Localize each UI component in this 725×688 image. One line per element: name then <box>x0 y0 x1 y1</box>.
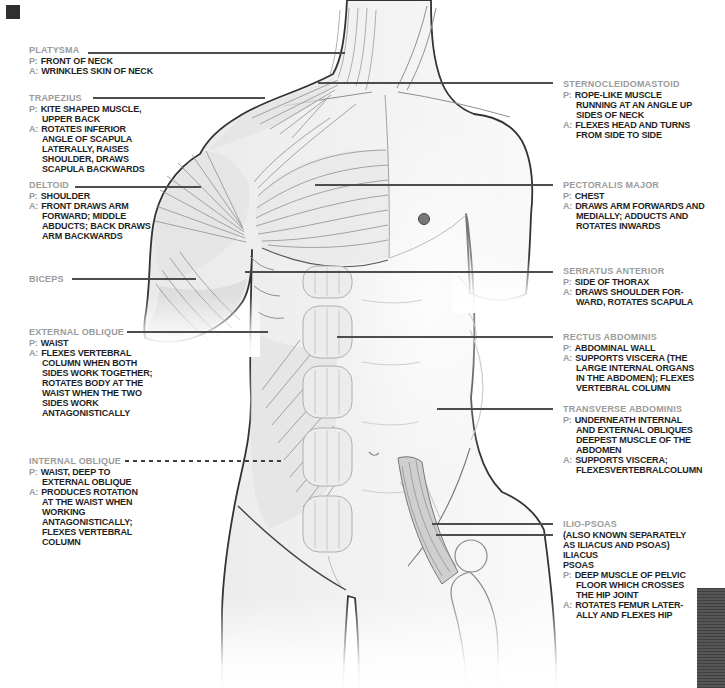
muscle-name: PLATYSMA <box>29 45 199 55</box>
alias-note: (ALSO KNOWN SEPARATELY AS ILIACUS AND PS… <box>563 530 725 570</box>
action-line: A:DRAWS SHOULDER FOR- WARD, ROTATES SCAP… <box>563 287 725 307</box>
action-line: A:DRAWS ARM FORWARDS AND MEDIALLY; ADDUC… <box>563 201 725 231</box>
position-line: P:WAIST <box>29 338 199 348</box>
label-platysma: PLATYSMA P:FRONT OF NECK A:WRINKLES SKIN… <box>29 45 199 76</box>
muscle-name: RECTUS ABDOMINIS <box>563 332 725 342</box>
leader-line-iliopsoas-lower <box>436 534 553 536</box>
muscle-name: TRAPEZIUS <box>29 93 199 103</box>
label-external-oblique: EXTERNAL OBLIQUE P:WAIST A:FLEXES VERTEB… <box>29 327 199 418</box>
position-line: P:KITE SHAPED MUSCLE, UPPER BACK <box>29 104 199 124</box>
right-arm-cut-fade <box>452 255 544 313</box>
leader-line-sternocleidomastoid <box>318 82 553 84</box>
action-line: A:ROTATES INFERIOR ANGLE OF SCAPULA LATE… <box>29 124 199 174</box>
muscle-name: DELTOID <box>29 180 199 190</box>
label-pectoralis-major: PECTORALIS MAJOR P:CHEST A:DRAWS ARM FOR… <box>563 180 725 231</box>
label-serratus-anterior: SERRATUS ANTERIOR P:SIDE OF THORAX A:DRA… <box>563 266 725 307</box>
position-line: P:WAIST, DEEP TO EXTERNAL OBLIQUE <box>29 467 199 487</box>
muscle-name: TRANSVERSE ABDOMINIS <box>563 404 725 414</box>
muscle-name: SERRATUS ANTERIOR <box>563 266 725 276</box>
leader-line-serratus <box>245 271 553 273</box>
label-rectus-abdominis: RECTUS ABDOMINIS P:ABDOMINAL WALL A:SUPP… <box>563 332 725 393</box>
label-transverse-abdominis: TRANSVERSE ABDOMINIS P:UNDERNEATH INTERN… <box>563 404 725 475</box>
muscle-name: INTERNAL OBLIQUE <box>29 456 199 466</box>
action-line: A:FLEXES HEAD AND TURNS FROM SIDE TO SID… <box>563 120 725 140</box>
label-sternocleidomastoid: STERNOCLEIDOMASTOID P:ROPE-LIKE MUSCLE R… <box>563 79 725 140</box>
muscle-name: STERNOCLEIDOMASTOID <box>563 79 725 89</box>
position-line: P:UNDERNEATH INTERNAL AND EXTERNAL OBLIQ… <box>563 415 725 455</box>
bottom-fade <box>140 598 580 688</box>
muscle-name: ILIO-PSOAS <box>563 519 725 529</box>
action-line: A:WRINKLES SKIN OF NECK <box>29 66 199 76</box>
label-biceps: BICEPS <box>29 274 199 285</box>
leader-line-transverse <box>437 408 553 410</box>
nipple-mark <box>419 214 430 225</box>
muscle-name: PECTORALIS MAJOR <box>563 180 725 190</box>
muscle-name: EXTERNAL OBLIQUE <box>29 327 199 337</box>
leader-line-iliopsoas-upper <box>432 523 553 525</box>
diagram-canvas: PLATYSMA P:FRONT OF NECK A:WRINKLES SKIN… <box>0 0 725 688</box>
label-internal-oblique: INTERNAL OBLIQUE P:WAIST, DEEP TO EXTERN… <box>29 456 199 547</box>
page-edge-bar <box>697 588 725 688</box>
position-line: P:ABDOMINAL WALL <box>563 343 725 353</box>
label-deltoid: DELTOID P:SHOULDER A:FRONT DRAWS ARM FOR… <box>29 180 199 241</box>
position-line: P:SIDE OF THORAX <box>563 277 725 287</box>
position-line: P:ROPE-LIKE MUSCLE RUNNING AT AN ANGLE U… <box>563 90 725 120</box>
action-line: A:FRONT DRAWS ARM FORWARD; MIDDLE ABDUCT… <box>29 201 199 241</box>
label-trapezius: TRAPEZIUS P:KITE SHAPED MUSCLE, UPPER BA… <box>29 93 199 174</box>
position-line: P:CHEST <box>563 191 725 201</box>
position-line: P:FRONT OF NECK <box>29 56 199 66</box>
action-line: A:FLEXES VERTEBRAL COLUMN WHEN BOTH SIDE… <box>29 348 199 418</box>
action-line: A:PRODUCES ROTATION AT THE WAIST WHEN WO… <box>29 487 199 547</box>
muscle-name: BICEPS <box>29 274 199 284</box>
leader-line-pectoralis <box>315 184 553 186</box>
page-corner-mark <box>6 5 20 19</box>
leader-line-rectus <box>337 336 553 338</box>
action-line: A:SUPPORTS VISCERA; FLEXESVERTEBRALCOLUM… <box>563 455 725 475</box>
position-line: P:SHOULDER <box>29 191 199 201</box>
action-line: A:SUPPORTS VISCERA (THE LARGE INTERNAL O… <box>563 353 725 393</box>
